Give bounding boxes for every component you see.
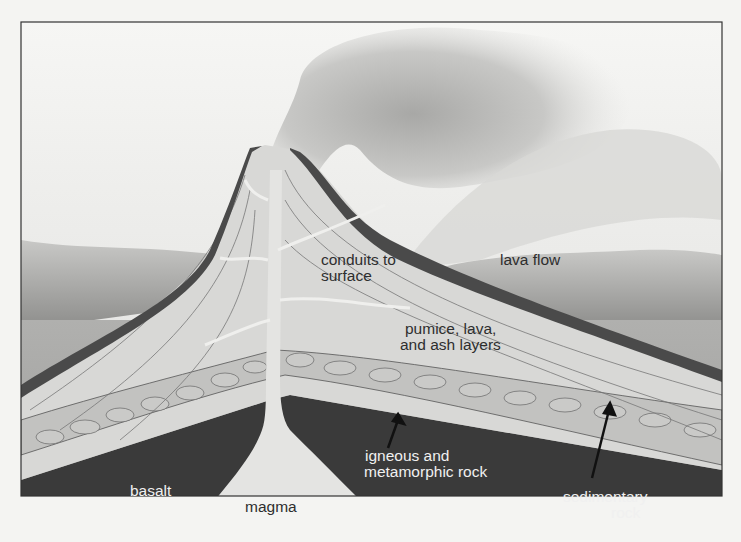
- conduit: [220, 258, 268, 260]
- label-layers: pumice, lava,and ash layers: [400, 320, 501, 353]
- label-lava-flow: lava flow: [500, 251, 561, 268]
- label-magma: magma: [245, 498, 297, 515]
- label-basalt: basalt: [130, 482, 172, 499]
- label-sedimentary: sedimentaryrock: [563, 488, 648, 521]
- volcano-cross-section-diagram: conduits tosurface lava flow pumice, lav…: [0, 0, 741, 542]
